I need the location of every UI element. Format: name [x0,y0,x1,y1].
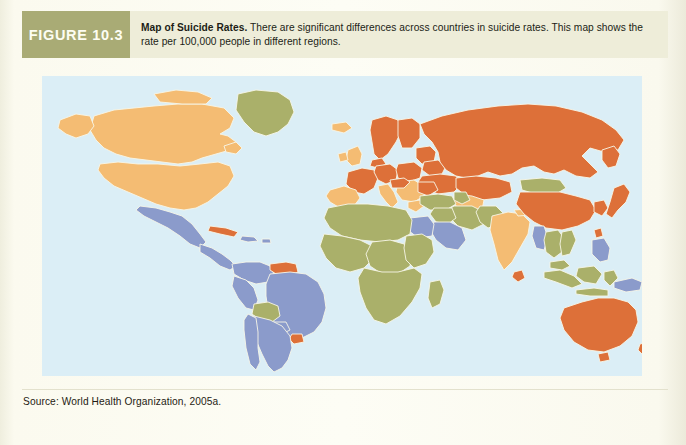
world-map-panel: .ct { fill: #dd7039; } /* >13 */ .cm { f… [42,76,642,376]
region-indonesia-java [576,288,608,296]
region-ireland [338,152,348,162]
figure-header: FIGURE 10.3 Map of Suicide Rates. There … [22,11,668,58]
source-text: Source: World Health Organization, 2005a… [23,396,221,407]
source-divider [22,389,668,390]
figure-caption-container: Map of Suicide Rates. There are signific… [130,11,668,58]
figure-number-badge: FIGURE 10.3 [22,11,130,58]
region-tasmania [598,352,610,362]
figure-caption-title: Map of Suicide Rates. [141,22,247,33]
figure-content: FIGURE 10.3 Map of Suicide Rates. There … [0,0,686,445]
figure-page: FIGURE 10.3 Map of Suicide Rates. There … [0,0,686,445]
world-map-svg: .ct { fill: #dd7039; } /* >13 */ .cm { f… [42,76,642,376]
figure-number-label: FIGURE 10.3 [29,27,124,43]
figure-caption: Map of Suicide Rates. There are signific… [141,21,659,48]
region-taiwan [594,228,603,238]
region-puerto-rico [262,239,271,243]
